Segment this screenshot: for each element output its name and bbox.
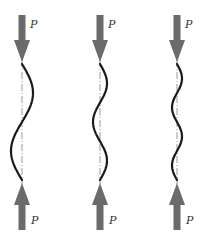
- top-load-label: P: [29, 18, 38, 31]
- arrow-down-icon: [14, 15, 30, 62]
- top-load-label: P: [107, 18, 116, 31]
- arrow-down-icon: [92, 15, 108, 62]
- mode-2-column: P P: [92, 15, 117, 230]
- arrow-up-icon: [169, 183, 185, 230]
- arrow-down-icon: [169, 15, 185, 62]
- arrow-up-icon: [14, 183, 30, 230]
- bottom-load-label: P: [108, 214, 117, 227]
- top-load-label: P: [184, 18, 193, 31]
- bottom-load-label: P: [30, 214, 39, 227]
- bottom-load-label: P: [185, 214, 194, 227]
- mode-3-column: P P: [169, 15, 194, 230]
- buckling-diagram: P P P P P P: [0, 0, 206, 251]
- mode-1-column: P P: [11, 15, 39, 230]
- arrow-up-icon: [92, 183, 108, 230]
